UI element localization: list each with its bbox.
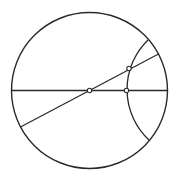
lower-intersection-point — [124, 88, 128, 92]
center-point — [87, 88, 91, 92]
poincare-disk-diagram — [0, 0, 173, 176]
upper-intersection-point — [127, 66, 131, 70]
